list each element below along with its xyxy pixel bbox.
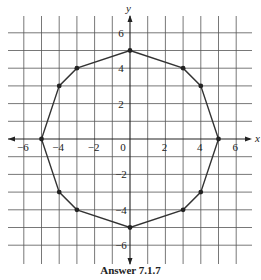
vertex-point: [57, 190, 62, 195]
vertex-point: [75, 66, 80, 71]
x-axis-arrow-left-icon: [8, 137, 15, 142]
x-tick-label: −4: [52, 141, 64, 153]
x-tick-label: −6: [17, 141, 29, 153]
vertex-point: [75, 207, 80, 212]
vertex-point: [128, 225, 133, 230]
x-tick-label: 0: [120, 141, 126, 153]
y-tick-label: 2: [118, 98, 124, 110]
vertex-point: [198, 84, 203, 89]
x-tick-label: 4: [197, 141, 203, 153]
x-tick-label: −2: [88, 141, 100, 153]
y-tick-label: −4: [115, 204, 127, 216]
x-axis-arrow-right-icon: [245, 137, 252, 142]
vertex-point: [39, 137, 44, 142]
vertex-point: [181, 66, 186, 71]
x-axis-label: x: [254, 132, 260, 144]
y-axis-arrow-up-icon: [128, 15, 133, 22]
x-tick-label: 6: [232, 141, 238, 153]
x-tick-label: 2: [162, 141, 168, 153]
vertex-point: [216, 137, 221, 142]
figure-caption: Answer 7.1.7: [0, 264, 261, 276]
y-axis-label: y: [125, 2, 131, 14]
y-tick-label: 6: [118, 27, 124, 39]
y-tick-label: −2: [115, 168, 127, 180]
vertex-point: [57, 84, 62, 89]
y-tick-label: −6: [115, 239, 127, 251]
vertex-point: [181, 207, 186, 212]
vertex-point: [128, 48, 133, 53]
vertex-point: [198, 190, 203, 195]
coordinate-plot: −6−4−20246642−2−4−6 x y: [0, 0, 261, 280]
y-tick-label: 4: [118, 62, 124, 74]
